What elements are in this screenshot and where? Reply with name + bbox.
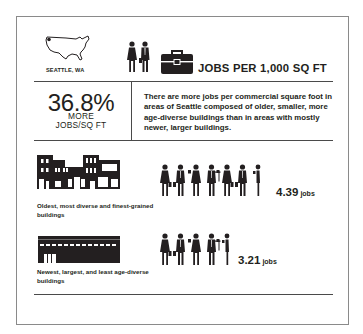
person-icon: [160, 164, 172, 196]
footer-divider: [34, 294, 333, 295]
person-icon: [188, 164, 201, 196]
people-row-new: [157, 233, 237, 267]
summary-divider: [34, 140, 333, 141]
jobs-number: 4.39: [276, 186, 298, 198]
summary-description: There are more jobs per commercial squar…: [144, 92, 344, 134]
header-divider: [34, 81, 333, 82]
person-icon: [235, 164, 247, 196]
person-icon: [253, 165, 260, 196]
page-title: JOBS PER 1,000 SQ FT: [198, 62, 327, 74]
person-icon: [207, 233, 221, 265]
person-icon: [222, 164, 234, 196]
location-label: SEATTLE, WA: [46, 67, 84, 73]
jobs-number: 3.21: [238, 254, 260, 266]
jobs-unit: jobs: [300, 190, 314, 197]
new-building-caption: Newest, largest, and least age-diverse b…: [37, 268, 157, 285]
person-icon: [222, 234, 229, 265]
jobs-unit: jobs: [262, 258, 276, 265]
old-buildings-caption: Oldest, most diverse and finest-grained …: [37, 202, 157, 219]
person-icon: [173, 233, 185, 265]
people-row-old: [157, 164, 267, 198]
new-building-icon: [38, 236, 120, 263]
briefcase-icon: [161, 50, 193, 74]
old-buildings-jobs-value: 4.39jobs: [276, 186, 315, 198]
stat-unit-label: JOBS/SQ FT: [31, 121, 131, 131]
person-icon: [188, 233, 201, 265]
workers-icon: [126, 41, 152, 73]
old-buildings-icon: [37, 155, 121, 189]
summary-vertical-divider: [131, 82, 132, 140]
person-icon: [173, 164, 185, 196]
new-buildings-jobs-value: 3.21jobs: [238, 254, 277, 266]
person-icon: [207, 164, 221, 196]
person-icon: [160, 233, 172, 265]
us-map-icon: [44, 33, 92, 63]
